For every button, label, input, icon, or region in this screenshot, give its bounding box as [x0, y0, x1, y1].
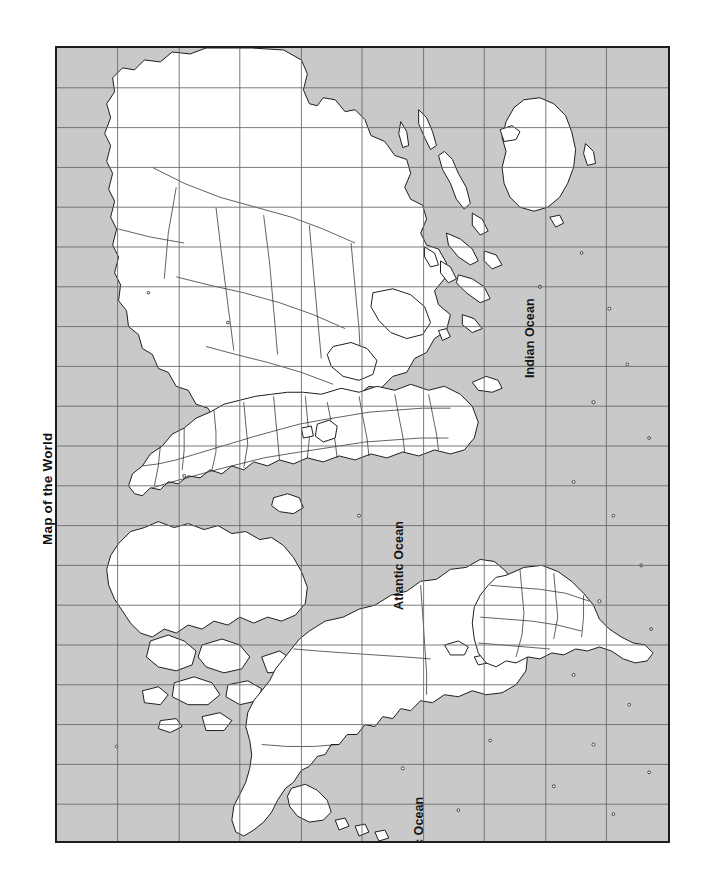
world-map-frame: Indian Ocean Atlantic Ocean Pacific Ocea…: [55, 46, 670, 843]
world-map-canvas: Indian Ocean Atlantic Ocean Pacific Ocea…: [57, 48, 668, 841]
landmass-ireland: [301, 426, 313, 438]
world-map-graphic: [57, 48, 668, 841]
landmass-british-isles: [315, 420, 337, 442]
page-root: Map of the World: [0, 0, 703, 893]
